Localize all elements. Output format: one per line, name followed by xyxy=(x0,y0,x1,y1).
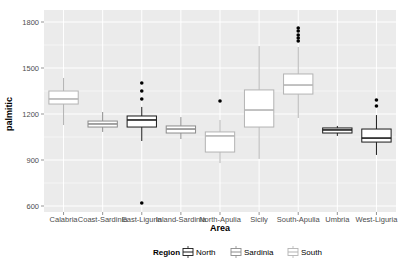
iqr-box xyxy=(205,132,234,152)
x-tick-label: South-Apulia xyxy=(277,215,321,224)
x-axis-title: Area xyxy=(210,223,231,233)
outlier-point xyxy=(140,81,144,85)
x-tick-label: Coast-Sardinia xyxy=(78,215,128,224)
iqr-box xyxy=(127,116,156,127)
y-tick-label: 1200 xyxy=(22,110,39,119)
outlier-point xyxy=(296,33,300,37)
legend-item-south: South xyxy=(288,246,322,258)
x-tick-label: Calabria xyxy=(50,215,79,224)
y-tick-label: 1500 xyxy=(22,64,39,73)
y-axis: 600900120015001800 xyxy=(22,18,44,211)
legend-label: North xyxy=(196,248,216,257)
outlier-point xyxy=(140,97,144,101)
x-tick-label: Sicily xyxy=(250,215,268,224)
y-axis-title: palmitic xyxy=(4,97,14,131)
y-tick-label: 1800 xyxy=(22,18,39,27)
iqr-box xyxy=(284,74,313,94)
outlier-point xyxy=(375,104,379,108)
legend-label: Sardinia xyxy=(244,248,274,257)
outlier-point xyxy=(140,201,144,205)
legend-title: Region xyxy=(153,248,180,257)
y-tick-label: 600 xyxy=(26,202,39,211)
iqr-box xyxy=(362,129,391,142)
outlier-point xyxy=(218,99,222,103)
legend-item-sardinia: Sardinia xyxy=(231,246,274,258)
y-tick-label: 900 xyxy=(26,156,39,165)
outlier-point xyxy=(375,98,379,102)
legend-label: South xyxy=(301,248,322,257)
outlier-point xyxy=(296,39,300,43)
legend: RegionNorthSardiniaSouth xyxy=(153,246,322,258)
boxplot-chart: 600900120015001800 CalabriaCoast-Sardini… xyxy=(0,0,415,275)
outlier-point xyxy=(296,29,300,33)
iqr-box xyxy=(49,91,78,104)
iqr-box xyxy=(244,90,273,127)
outlier-point xyxy=(296,26,300,30)
legend-item-north: North xyxy=(183,246,216,258)
x-tick-label: West-Liguria xyxy=(355,215,398,224)
outlier-point xyxy=(140,89,144,93)
x-tick-label: Umbria xyxy=(325,215,350,224)
